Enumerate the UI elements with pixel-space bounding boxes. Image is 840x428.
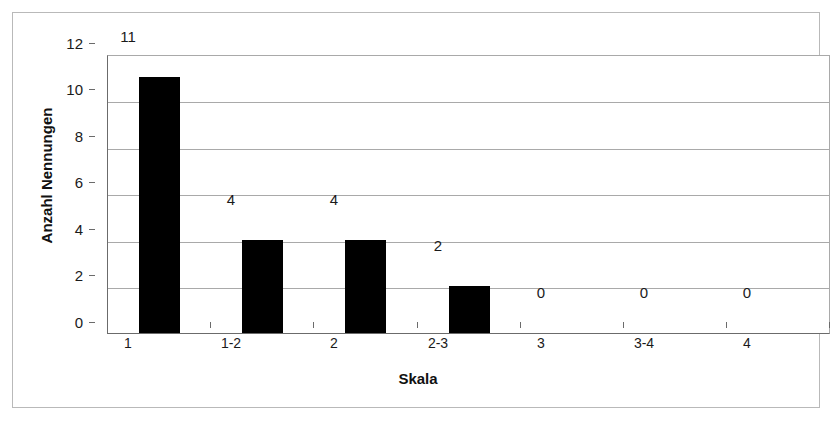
y-tick-mark-10 bbox=[89, 89, 95, 90]
y-tick-mark-0 bbox=[89, 322, 95, 323]
bar-label-3: 0 bbox=[511, 285, 571, 300]
bar-label-2-3: 2 bbox=[408, 238, 468, 253]
x-tick-label-2: 2 bbox=[304, 336, 364, 350]
x-tick-label-2-3: 2-3 bbox=[408, 336, 468, 350]
x-tick-mark-1 bbox=[210, 322, 211, 328]
x-tick-mark-2 bbox=[313, 322, 314, 328]
bar-label-1-2: 4 bbox=[201, 192, 261, 207]
y-tick-label-6: 6 bbox=[43, 175, 83, 190]
gridline-10 bbox=[108, 102, 829, 103]
figure-frame: Anzahl Nennungen 12 10 8 6 4 2 0 bbox=[12, 12, 820, 408]
x-tick-label-1: 1 bbox=[98, 336, 158, 350]
y-tick-label-10: 10 bbox=[43, 82, 83, 97]
y-tick-mark-8 bbox=[89, 136, 95, 137]
y-tick-mark-4 bbox=[89, 229, 95, 230]
bar-2-3[interactable] bbox=[449, 286, 490, 333]
bar-2[interactable] bbox=[345, 240, 386, 333]
x-tick-mark-6 bbox=[726, 322, 727, 328]
bar-label-2: 4 bbox=[304, 192, 364, 207]
x-tick-label-4: 4 bbox=[717, 336, 777, 350]
gridline-4 bbox=[108, 242, 829, 243]
x-tick-label-3-4: 3-4 bbox=[614, 336, 674, 350]
y-tick-mark-12 bbox=[89, 43, 95, 44]
x-axis-title: Skala bbox=[368, 371, 468, 386]
y-tick-label-12: 12 bbox=[43, 36, 83, 51]
bar-label-3-4: 0 bbox=[614, 285, 674, 300]
y-tick-mark-6 bbox=[89, 182, 95, 183]
x-tick-label-1-2: 1-2 bbox=[201, 336, 261, 350]
y-tick-label-0: 0 bbox=[43, 315, 83, 330]
chart-page: Anzahl Nennungen 12 10 8 6 4 2 0 bbox=[0, 0, 840, 428]
x-tick-mark-5 bbox=[623, 322, 624, 328]
bar-1-2[interactable] bbox=[242, 240, 283, 333]
y-tick-mark-2 bbox=[89, 275, 95, 276]
x-tick-mark-4 bbox=[520, 322, 521, 328]
bar-1[interactable] bbox=[139, 77, 180, 333]
x-tick-mark-7 bbox=[829, 322, 830, 328]
x-tick-label-3: 3 bbox=[511, 336, 571, 350]
bar-label-1: 11 bbox=[98, 29, 158, 44]
x-tick-mark-0 bbox=[107, 322, 108, 328]
y-tick-label-2: 2 bbox=[43, 268, 83, 283]
y-tick-label-4: 4 bbox=[43, 222, 83, 237]
bar-label-4: 0 bbox=[717, 285, 777, 300]
y-tick-label-8: 8 bbox=[43, 129, 83, 144]
x-tick-mark-3 bbox=[417, 322, 418, 328]
gridline-8 bbox=[108, 149, 829, 150]
